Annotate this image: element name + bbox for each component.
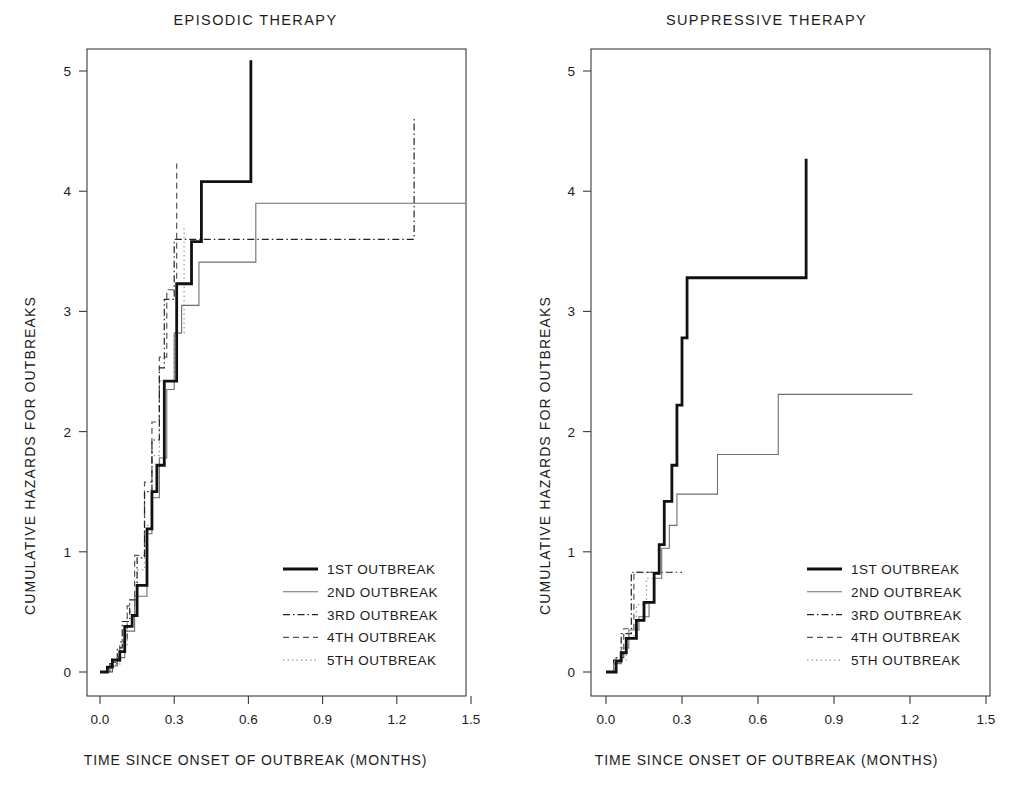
y-tick-label: 0: [63, 665, 71, 680]
curves-group: [100, 60, 486, 672]
legend-label: 4TH OUTBREAK: [851, 630, 961, 645]
panel-episodic-therapy: EPISODIC THERAPY TIME SINCE ONSET OF OUT…: [0, 0, 511, 795]
y-tick-label: 1: [63, 545, 71, 560]
legend-label: 1ST OUTBREAK: [327, 562, 436, 577]
x-tick-label: 1.2: [387, 712, 406, 727]
y-tick-label: 0: [567, 665, 575, 680]
x-tick-label: 1.5: [977, 712, 996, 727]
legend-label: 5TH OUTBREAK: [327, 653, 437, 668]
x-tick-label: 1.2: [901, 712, 920, 727]
x-tick-label: 0.6: [239, 712, 258, 727]
x-tick-label: 0.9: [825, 712, 844, 727]
curve-solid-thick: [606, 159, 806, 672]
legend: 1ST OUTBREAK2ND OUTBREAK3RD OUTBREAK4TH …: [807, 562, 962, 668]
legend-label: 2ND OUTBREAK: [851, 585, 962, 600]
y-tick-label: 2: [567, 425, 575, 440]
x-tick-label: 0.3: [165, 712, 184, 727]
curve-solid-thick: [100, 60, 251, 672]
legend-label: 3RD OUTBREAK: [327, 608, 438, 623]
curve-solid-thin: [100, 203, 486, 672]
curve-dotted: [100, 225, 184, 672]
y-tick-label: 1: [567, 545, 575, 560]
legend: 1ST OUTBREAK2ND OUTBREAK3RD OUTBREAK4TH …: [283, 562, 438, 668]
figure-canvas: EPISODIC THERAPY TIME SINCE ONSET OF OUT…: [0, 0, 1022, 795]
legend-label: 5TH OUTBREAK: [851, 653, 961, 668]
y-tick-label: 4: [63, 184, 71, 199]
legend-label: 2ND OUTBREAK: [327, 585, 438, 600]
x-tick-label: 0.0: [597, 712, 616, 727]
legend-label: 4TH OUTBREAK: [327, 630, 437, 645]
x-tick-label: 0.9: [313, 712, 332, 727]
y-tick-label: 5: [63, 64, 71, 79]
panel-suppressive-therapy: SUPPRESSIVE THERAPY TIME SINCE ONSET OF …: [511, 0, 1022, 795]
legend-label: 3RD OUTBREAK: [851, 608, 962, 623]
x-tick-label: 0.3: [673, 712, 692, 727]
y-tick-label: 5: [567, 64, 575, 79]
y-tick-label: 3: [567, 304, 575, 319]
x-tick-label: 1.5: [462, 712, 481, 727]
x-tick-label: 0.6: [749, 712, 768, 727]
legend-label: 1ST OUTBREAK: [851, 562, 960, 577]
plot-area-suppressive: 0.00.30.60.91.21.50123451ST OUTBREAK2ND …: [511, 0, 1022, 795]
x-tick-label: 0.0: [91, 712, 110, 727]
y-tick-label: 2: [63, 425, 71, 440]
y-tick-label: 3: [63, 304, 71, 319]
y-tick-label: 4: [567, 184, 575, 199]
plot-area-episodic: 0.00.30.60.91.21.50123451ST OUTBREAK2ND …: [0, 0, 511, 795]
